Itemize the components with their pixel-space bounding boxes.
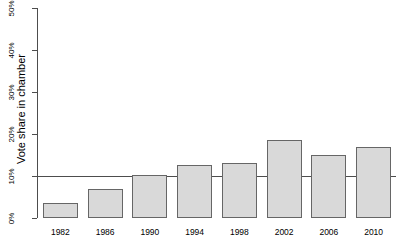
bar (177, 165, 212, 218)
bar (88, 189, 123, 218)
y-axis-tick-label: 10% (6, 160, 17, 194)
y-axis-tick (32, 134, 37, 135)
x-axis-tick-label: 2002 (262, 226, 307, 238)
x-axis-tick-label: 1990 (128, 226, 173, 238)
y-axis-tick (32, 8, 37, 9)
x-axis-tick-label: 2010 (351, 226, 396, 238)
x-axis-tick-label: 1998 (217, 226, 262, 238)
bar (43, 203, 78, 218)
bar (311, 155, 346, 218)
y-axis-tick-label: 0% (6, 202, 17, 236)
bar (222, 163, 257, 218)
plot-area (38, 8, 396, 218)
bar-chart: Vote share in chamber 0%10%20%30%40%50% … (0, 0, 397, 245)
x-axis-tick-label: 1986 (83, 226, 128, 238)
x-axis-tick-label: 1994 (172, 226, 217, 238)
y-axis-tick-label: 30% (6, 76, 17, 110)
y-axis-tick-label: 20% (6, 118, 17, 152)
y-axis-tick (32, 50, 37, 51)
bar (267, 140, 302, 218)
x-axis-tick-label: 1982 (38, 226, 83, 238)
bar (356, 147, 391, 218)
x-axis-tick-label: 2006 (307, 226, 352, 238)
y-axis-tick-label: 50% (6, 0, 17, 26)
bar (132, 175, 167, 218)
y-axis-tick (32, 218, 37, 219)
y-axis-tick (32, 92, 37, 93)
y-axis-tick-label: 40% (6, 34, 17, 68)
